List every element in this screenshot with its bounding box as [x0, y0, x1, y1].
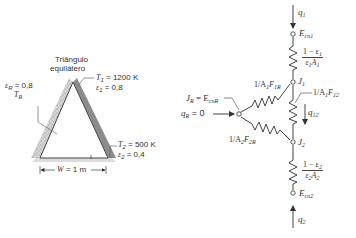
triangle-title-line2: equilátero	[50, 65, 85, 73]
node-J2	[291, 140, 295, 144]
triangle-figure	[31, 78, 117, 174]
q12-label: q12	[308, 108, 319, 117]
resistor-1-R	[252, 96, 278, 108]
temperature-1-label: T1 = 1200 K	[96, 74, 138, 82]
node-Ecn1	[291, 32, 295, 36]
resistor-surface-1	[289, 46, 297, 70]
J2-label: J2	[298, 138, 305, 147]
width-label: W = 1 m	[57, 166, 86, 174]
emissivity-2-label: ε2 = 0,4	[118, 151, 145, 159]
base-surface-band	[32, 158, 116, 162]
Ecn1-label: Ecn1	[299, 29, 313, 38]
resistance-2-R: 1/A2F2R	[229, 136, 256, 144]
Ecn2-label: Ecn2	[299, 189, 313, 198]
resistance-surface-1: 1 − ε1 ε1A1	[302, 48, 323, 67]
radiation-network	[213, 5, 312, 228]
resistance-surface-2: 1 − ε2 ε2A2	[302, 161, 323, 180]
leader-T1	[78, 78, 94, 86]
resistance-1-R: 1/A1F1R	[254, 81, 281, 89]
resistance-1-2: 1/A1F12	[313, 89, 339, 97]
JR-label: JR = EcnR	[186, 94, 218, 103]
temperature-2-label: T2 = 500 K	[118, 141, 156, 149]
resistor-surface-2	[289, 160, 297, 184]
emissivity-1-label: ε1 = 0,8	[96, 84, 123, 92]
network-nodes	[237, 32, 295, 195]
qR-label: qR = 0	[181, 109, 204, 118]
q1-label: q1	[298, 8, 306, 17]
triangle-title-line1: Triângulo	[55, 56, 88, 64]
q2-label: q2	[298, 215, 306, 224]
node-J1	[291, 80, 295, 84]
resistor-1-2	[289, 100, 297, 124]
emissivity-R-label: εR = 0,8	[5, 82, 33, 90]
resistor-2-R	[252, 122, 280, 134]
node-Ecn2	[291, 191, 295, 195]
J1-label: J1	[298, 77, 305, 86]
temperature-R-label: TR	[14, 91, 22, 99]
node-JR	[237, 112, 241, 116]
